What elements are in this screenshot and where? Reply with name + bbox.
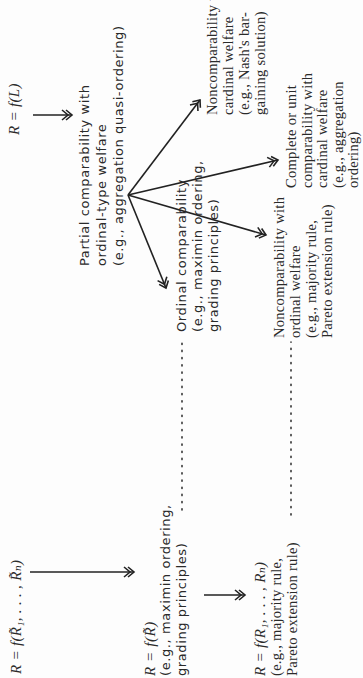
- r-f-rtilde-line-1: (e.g., maximin ordering,: [158, 504, 174, 676]
- rotated-diagram-canvas: R = f(L) Partial comparability with ordi…: [0, 0, 363, 678]
- nc-ordinal-line-4: Pareto extension rule): [319, 197, 335, 338]
- complete-line-5: ordering): [346, 73, 362, 188]
- nc-cardinal-line-4: gaining solution): [252, 0, 268, 115]
- ordinal-line-1: Ordinal comparability: [174, 160, 190, 332]
- complete-line-1: Complete or unit: [284, 73, 300, 188]
- ordinal-line-2: (e.g., maximin ordering,: [190, 160, 206, 332]
- partial-line-3: (e.g., aggregation quasi-ordering): [110, 25, 127, 266]
- diagram-frame: R = f(L) Partial comparability with ordi…: [0, 0, 363, 678]
- r-f-r-list-line-1: (e.g., majority rule,: [268, 542, 284, 676]
- partial-line-1: Partial comparability with: [76, 25, 93, 266]
- partial-line-2: ordinal-type welfare: [93, 25, 110, 266]
- nc-cardinal-line-2: cardinal welfare: [220, 0, 236, 115]
- complete-line-3: cardinal welfare: [315, 73, 331, 188]
- nc-ordinal-line-1: Noncomparability with: [271, 197, 287, 338]
- node-noncomparability-cardinal: Noncomparability with cardinal welfare (…: [204, 0, 268, 115]
- node-partial-comparability: Partial comparability with ordinal-type …: [76, 25, 127, 266]
- complete-line-4: (e.g., aggregation: [331, 73, 347, 188]
- ordinal-line-3: grading principles): [206, 160, 222, 332]
- nc-cardinal-line-1: Noncomparability with: [204, 0, 220, 115]
- nc-ordinal-line-2: ordinal welfare: [287, 197, 303, 338]
- node-noncomparability-ordinal: Noncomparability with ordinal welfare (e…: [271, 197, 335, 338]
- formula-r-f-l-text: R = f(L): [6, 83, 22, 135]
- complete-line-2: comparability with: [300, 73, 316, 188]
- node-r-f-rtilde: R = f(R̃) (e.g., maximin ordering, gradi…: [142, 504, 190, 676]
- node-r-f-r-list: R = f(R₁, . . . , Rₙ) (e.g., majority ru…: [252, 542, 300, 676]
- r-f-rtilde-line-2: grading principles): [174, 504, 190, 676]
- formula-r-f-rtilde-list-text: R = f(R̃₁, . . . , R̃ₙ): [8, 560, 24, 674]
- node-complete-comparability: Complete or unit comparability with card…: [284, 73, 362, 188]
- formula-r-f-rtilde: R = f(R̃): [142, 504, 158, 676]
- r-f-r-list-line-2: Pareto extension rule): [284, 542, 300, 676]
- node-ordinal-comparability: Ordinal comparability (e.g., maximin ord…: [174, 160, 222, 332]
- arrow-partial-to-ordinal: [128, 195, 166, 288]
- nc-ordinal-line-3: (e.g., majority rule,: [303, 197, 319, 338]
- formula-r-f-r-list: R = f(R₁, . . . , Rₙ): [252, 542, 268, 676]
- formula-r-f-l: R = f(L): [6, 83, 24, 135]
- nc-cardinal-line-3: (e.g., Nash's bar-: [236, 0, 252, 115]
- formula-r-f-rtilde-list: R = f(R̃₁, . . . , R̃ₙ): [8, 560, 26, 674]
